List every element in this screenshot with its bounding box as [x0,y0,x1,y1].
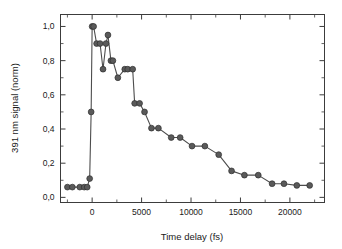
x-tick-label: 15000 [229,207,253,217]
data-point [87,176,93,182]
data-point [110,58,116,64]
y-tick-label: 0,6 [43,90,55,100]
x-tick-label: 20000 [278,207,302,217]
data-point [91,24,97,30]
y-tick-label: 0,2 [43,158,55,168]
data-point [100,66,106,72]
chart-figure: 05000100001500020000 0,00,20,40,60,81,0 … [0,0,342,249]
data-point [242,172,248,178]
data-point [269,181,275,187]
data-point [97,41,103,47]
y-tick-label: 0,8 [43,56,55,66]
x-tick-label: 0 [90,207,95,217]
data-point [130,66,136,72]
x-tick-label: 5000 [132,207,151,217]
data-point [105,32,111,38]
data-point [216,152,222,158]
data-point [69,184,75,190]
y-tick-label: 0,0 [43,192,55,202]
data-point [149,125,155,131]
data-point [84,184,90,190]
data-point [155,125,161,131]
data-point [142,109,148,115]
data-point [177,135,183,141]
chart-canvas: 05000100001500020000 0,00,20,40,60,81,0 … [0,0,342,249]
data-point [294,183,300,189]
data-point [307,183,313,189]
data-point [255,172,261,178]
data-point [281,181,287,187]
data-point [88,109,94,115]
data-point [229,168,235,174]
data-point [168,135,174,141]
data-point [189,143,195,149]
x-tick-label: 10000 [179,207,203,217]
y-tick-label: 1,0 [43,21,55,31]
data-point [103,41,109,47]
y-tick-label: 0,4 [43,124,55,134]
data-point [137,100,143,106]
data-point [115,75,121,81]
x-axis-title: Time delay (fs) [161,231,223,242]
data-point [202,143,208,149]
y-axis-title: 391 nm signal (norm) [9,63,20,153]
